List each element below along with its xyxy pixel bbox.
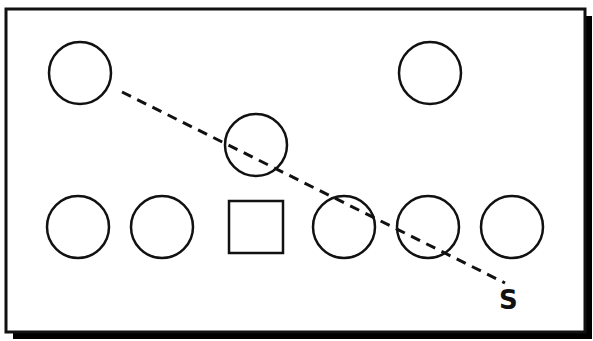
start-label-s: S: [499, 285, 518, 315]
play-diagram: S: [0, 0, 593, 341]
diagram-canvas: S: [0, 0, 593, 341]
diagram-frame: [6, 9, 585, 332]
